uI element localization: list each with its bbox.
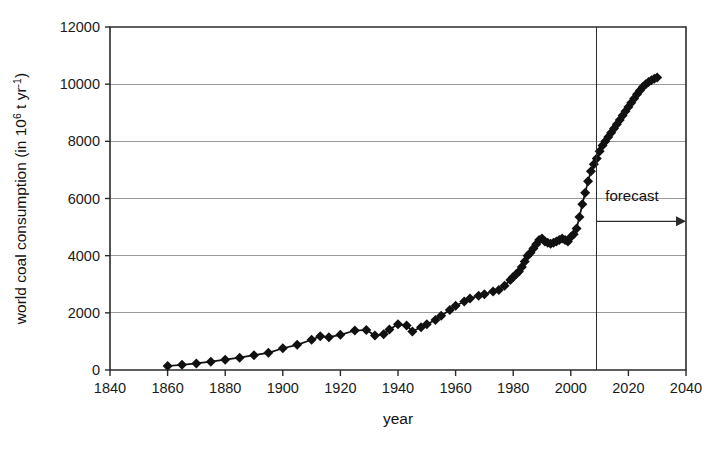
y-tick-label-0: 0 [92,362,100,378]
x-axis-title: year [383,410,413,427]
y-tick-label-8000: 8000 [68,133,100,149]
x-tick-label-2040: 2040 [670,380,702,396]
y-axis-title: world coal consumption (in 106 t yr-1) [11,73,29,325]
y-tick-label-12000: 12000 [60,19,100,35]
x-tick-label-1840: 1840 [94,380,126,396]
x-tick-label-2020: 2020 [612,380,644,396]
y-tick-label-4000: 4000 [68,248,100,264]
forecast-label: forecast [605,187,659,204]
x-tick-label-1980: 1980 [497,380,529,396]
y-tick-label-10000: 10000 [60,76,100,92]
coal-consumption-line-chart: 020004000600080001000012000 184018601880… [0,0,719,454]
x-tick-label-1940: 1940 [382,380,414,396]
x-tick-label-1880: 1880 [209,380,241,396]
x-tick-label-2000: 2000 [555,380,587,396]
x-tick-label-1860: 1860 [151,380,183,396]
y-tick-label-6000: 6000 [68,191,100,207]
x-tick-label-1900: 1900 [267,380,299,396]
x-tick-label-1960: 1960 [439,380,471,396]
x-tick-label-1920: 1920 [324,380,356,396]
chart-figure: 020004000600080001000012000 184018601880… [0,0,719,454]
y-tick-label-2000: 2000 [68,305,100,321]
